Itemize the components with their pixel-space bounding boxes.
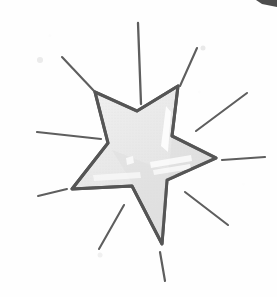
star-sketch-illustration (0, 0, 277, 297)
drawing-canvas: Hand-drawn star sparkle sketch A hand-dr… (0, 0, 277, 297)
scan-smudge-upper-right (201, 46, 206, 51)
scan-smudge-bottom-left (98, 253, 103, 258)
scan-smudge-upper-left (37, 57, 43, 63)
